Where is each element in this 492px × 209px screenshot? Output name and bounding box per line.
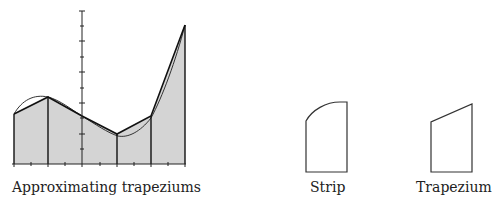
trapezium-shape bbox=[431, 104, 472, 172]
caption-strip: Strip bbox=[310, 179, 345, 195]
approximating-trapeziums-graph bbox=[12, 11, 186, 167]
caption-approximating-trapeziums: Approximating trapeziums bbox=[12, 179, 201, 195]
caption-trapezium: Trapezium bbox=[416, 179, 492, 195]
strip-shape bbox=[306, 102, 347, 172]
